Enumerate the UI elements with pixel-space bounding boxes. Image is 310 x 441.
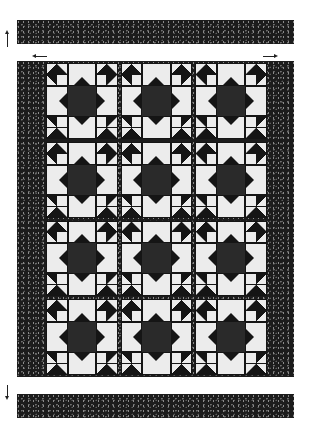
star-point-left (196, 87, 216, 115)
corner-patch (46, 273, 68, 296)
star-point-left (196, 244, 216, 272)
quilt-block (46, 63, 118, 139)
corner-patch (121, 221, 143, 244)
quilt-block (46, 221, 118, 297)
corner-patch (245, 299, 267, 322)
star-point-left (47, 244, 67, 272)
corner-patch (121, 195, 143, 218)
corner-patch (121, 352, 143, 375)
quilt-block (46, 299, 118, 375)
star-point-right (172, 244, 192, 272)
star-point-right (246, 166, 266, 194)
top-border-strip (17, 20, 294, 44)
star-point-top (218, 64, 244, 85)
star-center (68, 86, 96, 116)
quilt-block (121, 221, 193, 297)
corner-patch (171, 299, 193, 322)
corner-patch (245, 221, 267, 244)
arrow-up-icon (7, 33, 8, 47)
corner-patch (46, 63, 68, 86)
corner-patch (245, 195, 267, 218)
star-point-left (122, 323, 142, 351)
corner-patch (171, 221, 193, 244)
corner-patch (195, 63, 217, 86)
star-point-bottom (218, 196, 244, 217)
star-point-left (122, 166, 142, 194)
quilt-block (195, 299, 267, 375)
star-point-bottom (143, 353, 169, 374)
star-center (217, 243, 245, 273)
corner-patch (171, 116, 193, 139)
corner-patch (171, 273, 193, 296)
star-point-top (218, 300, 244, 321)
corner-patch (121, 273, 143, 296)
star-center (142, 86, 170, 116)
star-point-top (69, 64, 95, 85)
corner-patch (245, 352, 267, 375)
star-center (217, 322, 245, 352)
star-point-left (122, 87, 142, 115)
corner-patch (245, 116, 267, 139)
star-point-right (97, 323, 117, 351)
quilt-block (121, 142, 193, 218)
corner-patch (46, 195, 68, 218)
corner-patch (171, 352, 193, 375)
corner-patch (96, 195, 118, 218)
quilt-block (121, 63, 193, 139)
star-point-left (47, 87, 67, 115)
corner-patch (245, 142, 267, 165)
star-center (217, 165, 245, 195)
star-point-right (97, 244, 117, 272)
corner-patch (195, 221, 217, 244)
block-grid (46, 63, 267, 375)
corner-patch (195, 142, 217, 165)
star-point-left (122, 244, 142, 272)
quilt-block (195, 63, 267, 139)
star-center (217, 86, 245, 116)
star-center (68, 243, 96, 273)
star-point-bottom (143, 117, 169, 138)
star-point-bottom (143, 196, 169, 217)
star-point-bottom (69, 353, 95, 374)
corner-patch (171, 63, 193, 86)
star-point-top (143, 64, 169, 85)
star-point-right (172, 323, 192, 351)
star-point-right (172, 87, 192, 115)
arrow-left-icon (35, 56, 47, 57)
star-point-left (47, 166, 67, 194)
quilt-block (195, 221, 267, 297)
star-center (68, 165, 96, 195)
corner-patch (171, 142, 193, 165)
star-point-left (196, 323, 216, 351)
star-point-bottom (69, 117, 95, 138)
corner-patch (171, 195, 193, 218)
star-center (142, 322, 170, 352)
star-point-top (218, 222, 244, 243)
star-point-top (143, 143, 169, 164)
corner-patch (46, 142, 68, 165)
corner-patch (96, 142, 118, 165)
corner-patch (195, 273, 217, 296)
corner-patch (121, 116, 143, 139)
star-point-bottom (69, 274, 95, 295)
corner-patch (46, 352, 68, 375)
star-point-bottom (218, 353, 244, 374)
corner-patch (96, 299, 118, 322)
star-center (68, 322, 96, 352)
corner-patch (121, 299, 143, 322)
bottom-border-strip (17, 394, 294, 418)
corner-patch (96, 221, 118, 244)
corner-patch (245, 273, 267, 296)
star-point-right (246, 87, 266, 115)
star-point-bottom (218, 274, 244, 295)
corner-patch (121, 142, 143, 165)
star-point-bottom (69, 196, 95, 217)
star-center (142, 243, 170, 273)
quilt-body (17, 61, 294, 377)
arrow-down-icon (7, 385, 8, 397)
corner-patch (46, 221, 68, 244)
corner-patch (46, 116, 68, 139)
star-point-bottom (143, 274, 169, 295)
corner-patch (121, 63, 143, 86)
star-center (142, 165, 170, 195)
